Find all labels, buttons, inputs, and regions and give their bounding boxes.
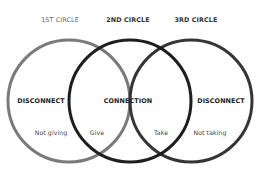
sublabel-take: Take	[154, 129, 168, 136]
sublabel-not-taking: Not taking	[193, 129, 226, 136]
header-1st-circle: 1ST CIRCLE	[41, 16, 79, 24]
sublabel-not-giving: Not giving	[35, 129, 68, 136]
region-center-label: CONNECTION	[104, 97, 152, 105]
sublabel-give: Give	[90, 129, 104, 136]
region-right-label: DISCONNECT	[197, 97, 245, 105]
header-3rd-circle: 3RD CIRCLE	[174, 16, 217, 24]
venn-diagram	[0, 0, 259, 174]
header-2nd-circle: 2ND CIRCLE	[106, 16, 149, 24]
region-left-label: DISCONNECT	[17, 97, 65, 105]
